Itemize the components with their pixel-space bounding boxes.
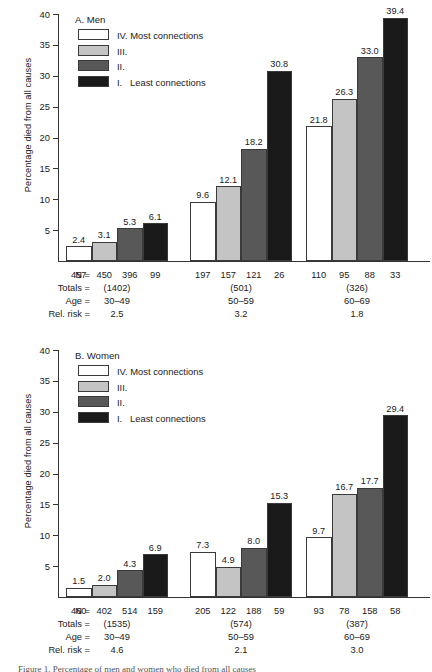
bar-value-label-women-g2-iii: 4.9: [212, 555, 246, 565]
totals-value-men-g1: (1402): [77, 283, 157, 293]
totals-value-men-g2: (501): [201, 283, 281, 293]
bar-value-label-men-g3-iv: 21.8: [302, 115, 336, 125]
bar-women-g1-iv[interactable]: [66, 588, 92, 597]
bar-women-g1-ii[interactable]: [117, 570, 143, 597]
totals-value-women-g2: (574): [201, 619, 281, 629]
age-value-men-g3: 60–69: [317, 296, 397, 306]
y-axis-tick-label: 25: [24, 438, 50, 447]
bar-men-g3-i[interactable]: [383, 18, 409, 261]
bar-value-label-women-g2-i: 15.3: [263, 491, 297, 501]
totals-value-women-g3: (387): [317, 619, 397, 629]
bar-value-label-women-g3-iv: 9.7: [302, 526, 336, 536]
n-value-men-g3-i: 33: [380, 270, 412, 280]
bar-men-g1-i[interactable]: [143, 223, 169, 261]
x-axis-line: [58, 597, 430, 598]
plot-area-women: 1.52.04.36.97.34.98.015.39.716.717.729.4: [58, 350, 430, 597]
y-axis-tick-label: 15: [24, 500, 50, 509]
age-value-women-g1: 30–49: [77, 632, 157, 642]
chart-panel-women: Percentage died from all causes510152025…: [0, 336, 432, 672]
bar-value-label-men-g2-i: 30.8: [263, 59, 297, 69]
bar-women-g3-iv[interactable]: [306, 537, 332, 597]
y-axis-tick-label: 30: [24, 407, 50, 416]
bar-women-g1-iii[interactable]: [92, 585, 118, 597]
y-axis-tick-label: 20: [24, 133, 50, 142]
bar-men-g2-iv[interactable]: [190, 202, 216, 261]
bar-men-g3-iv[interactable]: [306, 126, 332, 261]
y-axis-tick-label: 5: [24, 226, 50, 235]
bar-women-g2-iii[interactable]: [216, 567, 242, 597]
n-value-men-g1-i: 99: [140, 270, 172, 280]
totals-value-men-g3: (326): [317, 283, 397, 293]
bar-value-label-men-g1-i: 6.1: [139, 212, 173, 222]
bar-value-label-women-g1-i: 6.9: [139, 543, 173, 553]
bar-value-label-men-g2-iii: 12.1: [212, 175, 246, 185]
bar-women-g3-iii[interactable]: [332, 494, 358, 597]
bar-men-g3-ii[interactable]: [357, 57, 383, 261]
bar-value-label-women-g3-ii: 17.7: [353, 476, 387, 486]
bar-men-g1-ii[interactable]: [117, 228, 143, 261]
bar-men-g1-iii[interactable]: [92, 242, 118, 261]
rel-risk-value-men-g1: 2.5: [77, 309, 157, 319]
y-axis-tick-label: 35: [24, 40, 50, 49]
rel-risk-value-women-g1: 4.6: [77, 645, 157, 655]
bar-value-label-women-g3-i: 29.4: [379, 404, 413, 414]
plot-area-men: 2.43.15.36.19.612.118.230.821.826.333.03…: [58, 14, 430, 261]
y-axis-tick-label: 25: [24, 102, 50, 111]
bar-value-label-men-g2-iv: 9.6: [186, 190, 220, 200]
rel-risk-value-men-g2: 3.2: [201, 309, 281, 319]
age-value-men-g2: 50–59: [201, 296, 281, 306]
bar-value-label-men-g3-ii: 33.0: [353, 46, 387, 56]
bar-value-label-women-g1-ii: 4.3: [113, 559, 147, 569]
y-axis-tick-label: 10: [24, 195, 50, 204]
rel-risk-value-men-g3: 1.8: [317, 309, 397, 319]
bar-value-label-women-g2-ii: 8.0: [237, 536, 271, 546]
x-axis-line: [58, 261, 430, 262]
bar-value-label-women-g2-iv: 7.3: [186, 540, 220, 550]
n-value-women-g1-i: 159: [140, 606, 172, 616]
age-value-women-g3: 60–69: [317, 632, 397, 642]
age-value-women-g2: 50–59: [201, 632, 281, 642]
rel-risk-value-women-g3: 3.0: [317, 645, 397, 655]
bar-women-g2-ii[interactable]: [241, 548, 267, 597]
bar-men-g2-i[interactable]: [267, 71, 293, 261]
bar-men-g3-iii[interactable]: [332, 99, 358, 261]
chart-panel-men: Percentage died from all causes510152025…: [0, 0, 432, 336]
bar-women-g3-ii[interactable]: [357, 488, 383, 597]
y-axis-tick-label: 35: [24, 376, 50, 385]
bar-men-g1-iv[interactable]: [66, 246, 92, 261]
n-value-women-g2-i: 59: [264, 606, 296, 616]
figure-root: Percentage died from all causes510152025…: [0, 0, 432, 672]
bar-value-label-men-g3-i: 39.4: [379, 6, 413, 16]
y-axis-tick-label: 40: [24, 346, 50, 355]
bar-women-g3-i[interactable]: [383, 415, 409, 597]
rel-risk-value-women-g2: 2.1: [201, 645, 281, 655]
y-axis-tick-label: 20: [24, 469, 50, 478]
n-value-men-g2-i: 26: [264, 270, 296, 280]
bar-value-label-men-g1-iii: 3.1: [88, 230, 122, 240]
n-value-women-g3-i: 58: [380, 606, 412, 616]
bar-men-g2-ii[interactable]: [241, 149, 267, 261]
bar-value-label-women-g1-iii: 2.0: [88, 573, 122, 583]
y-axis-tick-label: 10: [24, 531, 50, 540]
figure-caption: Figure 1. Percentage of men and women wh…: [18, 664, 418, 672]
bar-value-label-men-g3-iii: 26.3: [328, 87, 362, 97]
bar-value-label-men-g2-ii: 18.2: [237, 137, 271, 147]
y-axis-tick-label: 15: [24, 164, 50, 173]
y-axis-tick-label: 5: [24, 562, 50, 571]
y-axis-tick-label: 30: [24, 71, 50, 80]
bar-women-g2-i[interactable]: [267, 503, 293, 597]
y-axis-tick-label: 40: [24, 10, 50, 19]
bar-men-g2-iii[interactable]: [216, 186, 242, 261]
bar-women-g1-i[interactable]: [143, 554, 169, 597]
age-value-men-g1: 30–49: [77, 296, 157, 306]
totals-value-women-g1: (1535): [77, 619, 157, 629]
